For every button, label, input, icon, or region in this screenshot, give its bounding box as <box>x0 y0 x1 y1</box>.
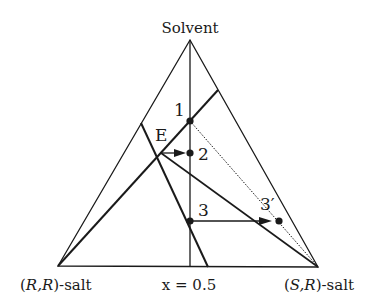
vertex-solvent-label: Solvent <box>161 19 218 37</box>
axis-label-x-half: x = 0.5 <box>162 276 216 294</box>
label-point-3: 3 <box>198 200 209 220</box>
rr-suffix: )-salt <box>53 276 91 294</box>
label-point-3-prime: 3′ <box>260 194 275 214</box>
rr-italic: R,R <box>25 276 53 294</box>
sr-italic: S,R <box>290 276 316 294</box>
dotted-line-1-sr <box>190 121 318 267</box>
label-point-1: 1 <box>174 100 185 120</box>
sr-suffix: )-salt <box>316 276 354 294</box>
point-3 <box>186 217 193 224</box>
label-point-e: E <box>155 125 167 145</box>
ternary-diagram: 1 2 3 3′ E Solvent (R,R)-salt x = 0.5 (S… <box>0 0 380 307</box>
point-2 <box>186 149 193 156</box>
label-point-2: 2 <box>198 144 209 164</box>
arrowhead-3-to-3p <box>259 217 272 225</box>
tie-line-e-sr <box>161 153 318 267</box>
arrowhead-e-to-2 <box>174 149 186 157</box>
vertex-sr-salt-label: (S,R)-salt <box>284 276 354 294</box>
solubility-line-rr <box>58 90 218 266</box>
point-1 <box>186 117 193 124</box>
vertex-rr-salt-label: (R,R)-salt <box>20 276 92 294</box>
point-3-prime <box>275 217 282 224</box>
